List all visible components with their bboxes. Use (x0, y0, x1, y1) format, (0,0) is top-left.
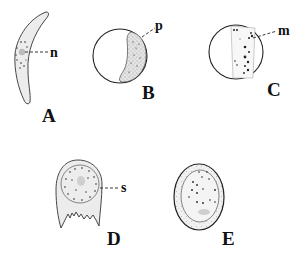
crescent-plastid (120, 32, 147, 82)
panel-d: s D (56, 160, 127, 249)
part-label-s: s (121, 180, 127, 195)
panel-label-d: D (107, 228, 121, 249)
part-label-m: m (278, 23, 290, 38)
panel-b: p B (93, 18, 163, 103)
panel-a: n A (15, 12, 58, 126)
leader-line-p (142, 28, 155, 37)
panel-label-b: B (142, 82, 155, 103)
panel-e: E (174, 164, 235, 249)
crescent-cell-body (15, 12, 49, 104)
part-label-n: n (50, 45, 58, 60)
panel-c: m C (209, 23, 290, 100)
panel-label-c: C (267, 79, 281, 100)
panel-label-a: A (42, 105, 56, 126)
panel-label-e: E (222, 228, 235, 249)
basal-body-e (198, 209, 210, 215)
cell-morphology-figure: n A p B (0, 0, 307, 255)
part-label-p: p (155, 18, 163, 33)
